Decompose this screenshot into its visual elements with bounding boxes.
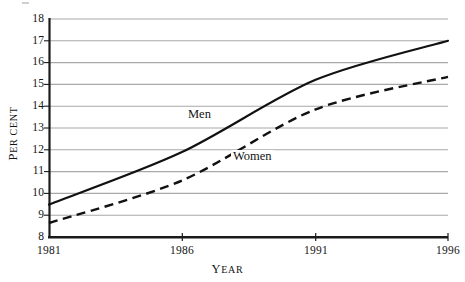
scan-artifact [22, 2, 29, 4]
y-axis-label-15: 15 [20, 78, 44, 90]
x-tick-label-wrap: 1986 [152, 244, 212, 258]
y-tickmark-group [44, 41, 49, 215]
x-axis-label-1986: 1986 [152, 244, 212, 257]
series-annotation-women: Women [231, 150, 274, 163]
x-axis-label-1981: 1981 [19, 244, 79, 257]
x-tick-label-wrap: 1991 [286, 244, 346, 258]
y-axis-label-10: 10 [20, 187, 44, 199]
series-annotation-men: Men [186, 108, 213, 121]
y-axis-label-13: 13 [20, 122, 44, 134]
y-axis-label-11: 11 [20, 165, 44, 177]
x-axis-label-1991: 1991 [286, 244, 346, 257]
y-axis-label-16: 16 [20, 56, 44, 68]
x-axis-label-1996: 1996 [418, 244, 465, 257]
y-axis-title: PER CENT [6, 104, 21, 164]
y-axis-label-17: 17 [20, 35, 44, 47]
x-tick-label-wrap: 1996 [418, 244, 465, 258]
y-axis-label-8: 8 [20, 231, 44, 243]
gridline-group [49, 19, 448, 215]
y-axis-label-18: 18 [20, 13, 44, 25]
x-tick-label-wrap: 1981 [19, 244, 79, 258]
y-axis-label-12: 12 [20, 144, 44, 156]
y-axis-label-14: 14 [20, 100, 44, 112]
y-axis-title-rest: ER CENT [8, 107, 19, 153]
x-axis-title: YEAR [0, 262, 455, 277]
x-axis-title-initial: Y [212, 262, 222, 276]
y-axis-label-9: 9 [20, 209, 44, 221]
y-axis-title-initial: P [6, 153, 20, 161]
x-axis-title-rest: EAR [221, 264, 243, 275]
series-line-men [49, 41, 448, 205]
